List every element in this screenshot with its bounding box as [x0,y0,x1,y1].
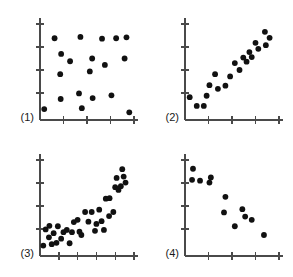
data-point [96,207,102,213]
data-point [122,56,128,62]
data-point [54,240,60,246]
data-point [244,59,250,65]
data-point [207,82,213,88]
data-point [197,178,203,184]
data-point [189,177,195,183]
data-point [109,92,115,98]
data-point [47,223,53,229]
data-point [110,209,116,215]
data-point [255,46,261,52]
scatter-panel-3: (3) [14,146,146,274]
data-point [106,213,112,219]
data-point [267,35,273,41]
data-point [249,54,255,60]
data-point [94,221,100,227]
data-point [215,86,221,92]
data-point [223,83,229,89]
scatter-plot-svg: (3) [14,146,146,274]
data-point [90,95,96,101]
data-point [51,230,57,236]
data-point [207,180,213,186]
data-point [124,34,130,40]
data-point [232,223,238,229]
scatter-plot-svg: (4) [159,146,291,274]
data-point [263,42,269,48]
data-point [114,175,120,181]
data-point [41,106,47,112]
data-point [40,243,46,249]
data-point [246,49,252,55]
data-point [58,236,64,242]
data-point [89,209,95,215]
data-point [67,58,73,64]
data-point [119,166,125,172]
data-point [55,223,61,229]
data-point [239,206,245,212]
data-point [46,234,52,240]
data-point [126,109,132,115]
data-point [237,67,243,73]
data-point [76,91,82,97]
data-point [261,232,267,238]
panel-label: (2) [166,111,179,123]
data-point [58,96,64,102]
data-point [107,195,113,201]
panel-label: (4) [166,247,179,259]
data-point [232,60,238,66]
scatter-panel-1: (1) [14,10,146,138]
scatter-plot-svg: (1) [14,10,146,138]
scatter-panel-4: (4) [159,146,291,274]
data-point [212,71,218,77]
panel-label: (1) [21,111,34,123]
panel-label: (3) [21,247,34,259]
data-point [208,175,214,181]
data-point [121,174,127,180]
data-point [101,227,107,233]
data-point [64,227,70,233]
data-point [58,51,64,57]
data-point [253,40,259,46]
data-point [57,71,63,77]
data-point [113,35,119,41]
data-point [223,194,229,200]
data-point [227,74,233,80]
data-point [99,36,105,42]
data-point [187,94,193,100]
data-point [201,103,207,109]
data-point [118,183,124,189]
data-point [52,35,58,41]
data-point [78,232,84,238]
data-point [69,229,75,235]
data-point [87,68,93,74]
data-point [82,209,88,215]
data-point [190,166,196,172]
data-point [79,105,85,111]
data-point [221,210,227,216]
data-point [89,56,95,62]
data-point [78,34,84,40]
scatterplot-figure: (1) (2) (3) (4) [0,0,293,277]
scatter-panel-2: (2) [159,10,291,138]
data-point [99,218,105,224]
data-point [86,219,92,225]
data-point [262,29,268,35]
data-point [102,62,108,68]
data-point [123,180,129,186]
data-point [242,214,248,220]
data-point [75,217,81,223]
data-point [194,103,200,109]
data-point [67,240,73,246]
data-point [204,93,210,99]
scatter-plot-svg: (2) [159,10,291,138]
data-point [92,228,98,234]
data-point [249,217,255,223]
